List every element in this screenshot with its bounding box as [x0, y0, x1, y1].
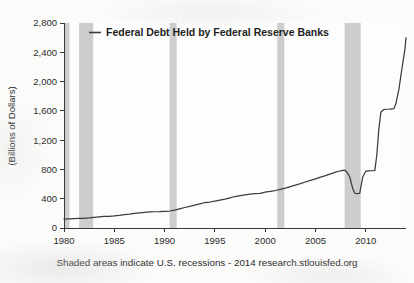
- chart-canvas: 04008001,2001,6002,0002,4002,800 1980198…: [0, 0, 414, 283]
- y-tick-label: 400: [41, 193, 57, 204]
- recession-band: [277, 23, 284, 228]
- recession-band: [345, 23, 361, 228]
- y-tick-label: 800: [41, 164, 57, 175]
- y-tick-label: 0: [52, 222, 57, 233]
- x-tick-label: 1985: [104, 235, 125, 246]
- legend-label-federal-debt: Federal Debt Held by Federal Reserve Ban…: [106, 26, 329, 38]
- recession-band: [79, 23, 93, 228]
- y-tick-label: 2,000: [33, 76, 57, 87]
- x-tick-label: 2005: [305, 235, 326, 246]
- recession-band: [170, 23, 177, 228]
- x-tick-label: 1980: [53, 235, 74, 246]
- y-axis-title: (Billions of Dollars): [6, 86, 17, 165]
- y-axis: 04008001,2001,6002,0002,4002,800: [33, 17, 64, 233]
- y-tick-label: 2,800: [33, 17, 57, 28]
- y-tick-label: 2,400: [33, 47, 57, 58]
- x-tick-label: 2010: [355, 235, 376, 246]
- y-tick-label: 1,600: [33, 105, 57, 116]
- x-tick-label: 2000: [255, 235, 276, 246]
- footer-source-note: Shaded areas indicate U.S. recessions - …: [56, 257, 357, 268]
- federal-debt-chart: 04008001,2001,6002,0002,4002,800 1980198…: [0, 0, 414, 283]
- chart-legend: Federal Debt Held by Federal Reserve Ban…: [89, 26, 329, 38]
- x-tick-label: 1990: [154, 235, 175, 246]
- y-tick-label: 1,200: [33, 135, 57, 146]
- chart-page: 04008001,2001,6002,0002,4002,800 1980198…: [0, 0, 414, 283]
- x-axis: 1980198519901995200020052010: [53, 228, 376, 246]
- x-tick-label: 1995: [204, 235, 225, 246]
